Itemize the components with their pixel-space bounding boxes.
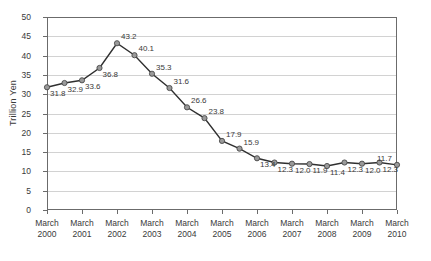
y-axis-tick [43, 36, 47, 37]
x-axis-tick [222, 210, 223, 214]
x-axis-tick [362, 210, 363, 214]
data-point-label: 11.9 [313, 166, 328, 175]
data-point-label: 23.8 [209, 107, 225, 116]
y-axis-tick [43, 191, 47, 192]
y-axis-tick [43, 94, 47, 95]
gridline [48, 133, 396, 134]
y-axis-tick-label: 0 [9, 205, 31, 215]
y-axis-tick-label: 5 [9, 186, 31, 196]
line-chart: Trillion Yen 05101520253035404550 March2… [0, 0, 431, 261]
gridline [48, 75, 396, 76]
x-axis-tick [292, 210, 293, 214]
y-axis-tick [43, 133, 47, 134]
y-axis-tick-label: 40 [9, 51, 31, 61]
data-point-label: 12.3 [348, 165, 364, 174]
x-axis-tick [117, 210, 118, 214]
data-point-label: 12.0 [365, 166, 381, 175]
data-point-label: 43.2 [121, 32, 137, 41]
data-point-label: 31.8 [50, 89, 66, 98]
gridline [48, 36, 396, 37]
y-axis-tick [43, 152, 47, 153]
x-axis-tick [187, 210, 188, 214]
gridline [48, 191, 396, 192]
y-axis-tick-label: 20 [9, 128, 31, 138]
data-point-label: 15.9 [244, 138, 260, 147]
gridline [48, 56, 396, 57]
x-axis-tick [257, 210, 258, 214]
y-axis-tick-label: 45 [9, 31, 31, 41]
y-axis-title-label: Trillion Yen [8, 79, 18, 125]
data-point-label: 33.6 [85, 82, 101, 91]
x-axis-tick [327, 210, 328, 214]
data-point-label: 12.3 [278, 165, 294, 174]
y-axis-tick-label: 50 [9, 12, 31, 22]
data-point-label: 26.6 [191, 96, 207, 105]
gridline [48, 152, 396, 153]
data-point-label: 12.0 [295, 166, 311, 175]
x-axis-tick [82, 210, 83, 214]
y-axis-tick [43, 56, 47, 57]
x-axis-tick [152, 210, 153, 214]
y-axis-tick [43, 17, 47, 18]
x-axis-tick [47, 210, 48, 214]
y-axis-tick [43, 171, 47, 172]
data-point-label: 31.6 [174, 77, 190, 86]
data-point-label: 13.4 [260, 160, 276, 169]
data-point-label: 12.3 [383, 165, 399, 174]
data-point-label: 17.9 [226, 130, 242, 139]
data-point-label: 36.8 [103, 70, 119, 79]
x-axis-tick-label: March2010 [374, 218, 420, 240]
data-point-label: 11.7 [377, 154, 392, 163]
y-axis-tick-label: 10 [9, 166, 31, 176]
data-point-label: 32.9 [68, 85, 84, 94]
y-axis-tick [43, 75, 47, 76]
y-axis-tick-label: 30 [9, 89, 31, 99]
y-axis-tick [43, 114, 47, 115]
y-axis-tick-label: 15 [9, 147, 31, 157]
data-point-label: 35.3 [156, 63, 172, 72]
y-axis-tick-label: 25 [9, 109, 31, 119]
y-axis-tick-label: 35 [9, 70, 31, 80]
x-axis-tick [397, 210, 398, 214]
data-point-label: 40.1 [139, 44, 155, 53]
gridline [48, 94, 396, 95]
data-point-label: 11.4 [330, 168, 345, 177]
